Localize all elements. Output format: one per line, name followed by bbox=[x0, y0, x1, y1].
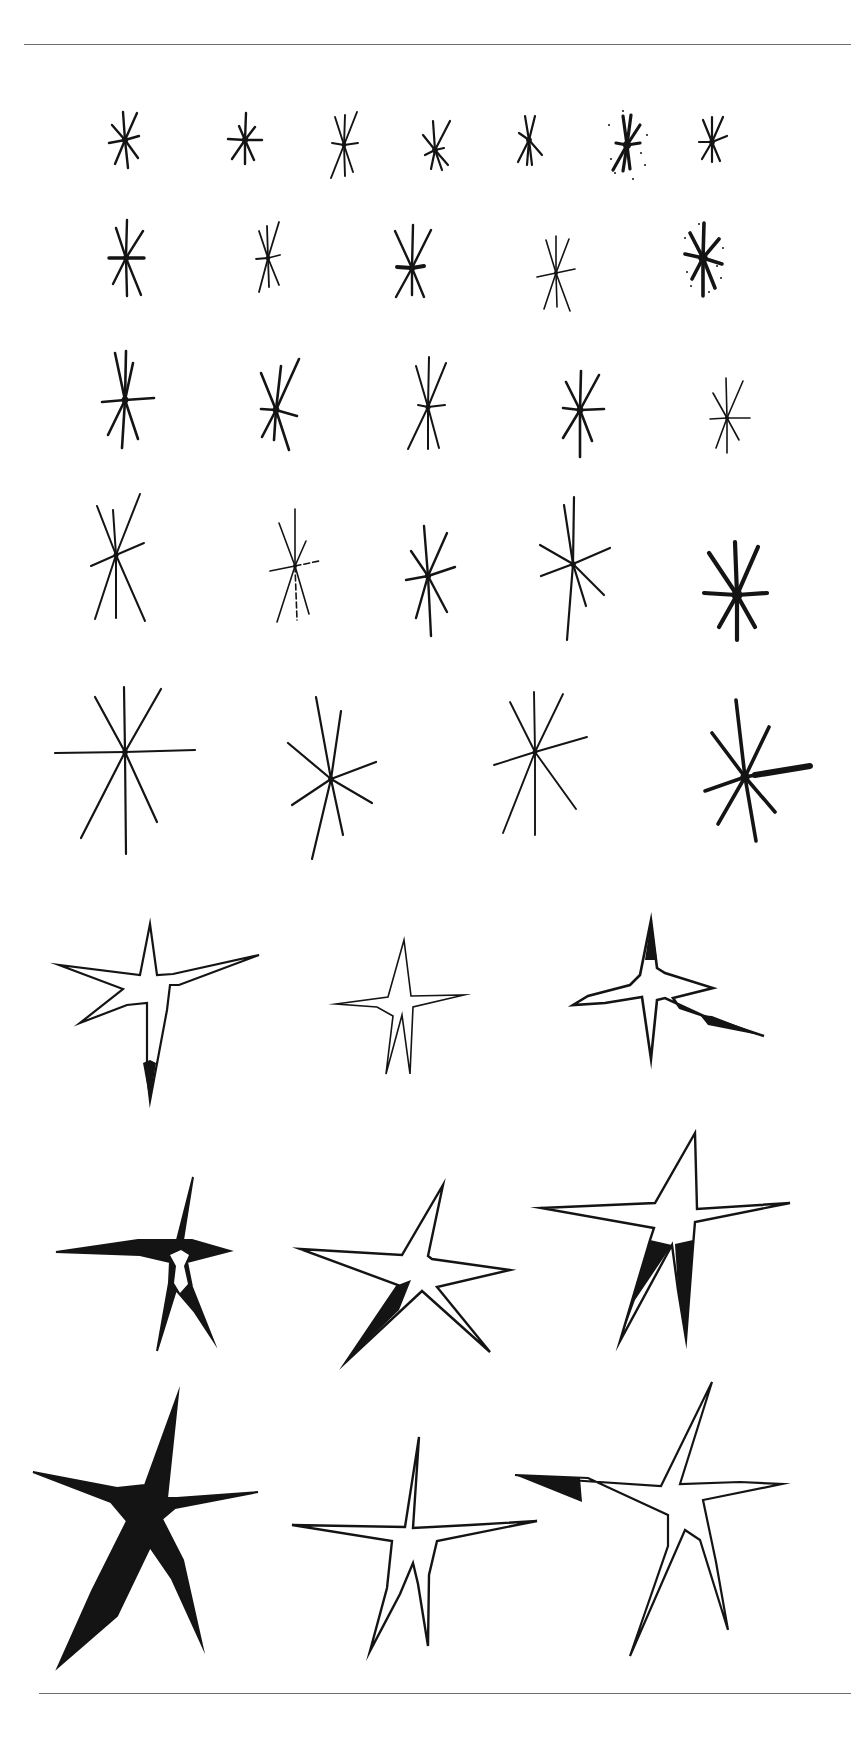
outline-star-icon bbox=[56, 1177, 230, 1351]
asterisk-star-icon bbox=[256, 222, 280, 292]
asterisk-star-icon bbox=[288, 697, 376, 859]
asterisk-star-icon bbox=[109, 112, 139, 168]
row-1-small-asterisks bbox=[109, 110, 727, 180]
asterisk-star-icon bbox=[563, 371, 604, 457]
asterisk-star-icon bbox=[710, 378, 750, 453]
asterisk-star-icon bbox=[228, 113, 262, 164]
asterisk-star-icon bbox=[608, 110, 648, 180]
asterisk-star-icon bbox=[704, 542, 767, 640]
outline-star-icon bbox=[300, 1185, 510, 1362]
outline-star-icon bbox=[292, 1437, 537, 1651]
asterisk-star-icon bbox=[91, 494, 145, 621]
asterisk-star-icon bbox=[540, 497, 610, 640]
star-illustrations bbox=[0, 0, 851, 1738]
asterisk-star-icon bbox=[518, 116, 542, 165]
asterisk-star-icon bbox=[261, 359, 299, 450]
asterisk-star-icon bbox=[408, 357, 446, 449]
asterisk-star-icon bbox=[109, 220, 144, 296]
row-7-half-filled-stars bbox=[56, 1133, 790, 1362]
bottom-rule bbox=[39, 1693, 851, 1694]
outline-star-icon bbox=[33, 1394, 258, 1667]
asterisk-star-icon bbox=[494, 692, 587, 835]
asterisk-star-icon bbox=[102, 351, 154, 448]
row-4-asterisks bbox=[91, 494, 767, 640]
star-clipart-sheet bbox=[0, 0, 851, 1738]
asterisk-star-icon bbox=[395, 225, 431, 297]
asterisk-star-icon bbox=[705, 700, 810, 841]
outline-star-icon bbox=[59, 924, 259, 1101]
asterisk-star-icon bbox=[55, 687, 195, 854]
asterisk-star-icon bbox=[699, 117, 727, 162]
outline-star-icon bbox=[336, 940, 464, 1074]
row-5-large-asterisks bbox=[55, 687, 810, 859]
asterisk-star-icon bbox=[423, 121, 450, 170]
outline-star-icon bbox=[573, 920, 764, 1059]
outline-star-icon bbox=[515, 1382, 782, 1656]
row-6-outline-stars bbox=[59, 920, 764, 1101]
asterisk-star-icon bbox=[684, 223, 724, 296]
row-2-asterisks bbox=[109, 220, 724, 311]
asterisk-star-icon bbox=[331, 112, 358, 178]
outline-star-icon bbox=[541, 1133, 790, 1341]
asterisk-star-icon bbox=[537, 236, 575, 311]
row-3-asterisks bbox=[102, 351, 750, 457]
asterisk-star-icon bbox=[270, 509, 319, 622]
asterisk-star-icon bbox=[406, 526, 455, 636]
row-8-large-stars bbox=[33, 1382, 782, 1667]
